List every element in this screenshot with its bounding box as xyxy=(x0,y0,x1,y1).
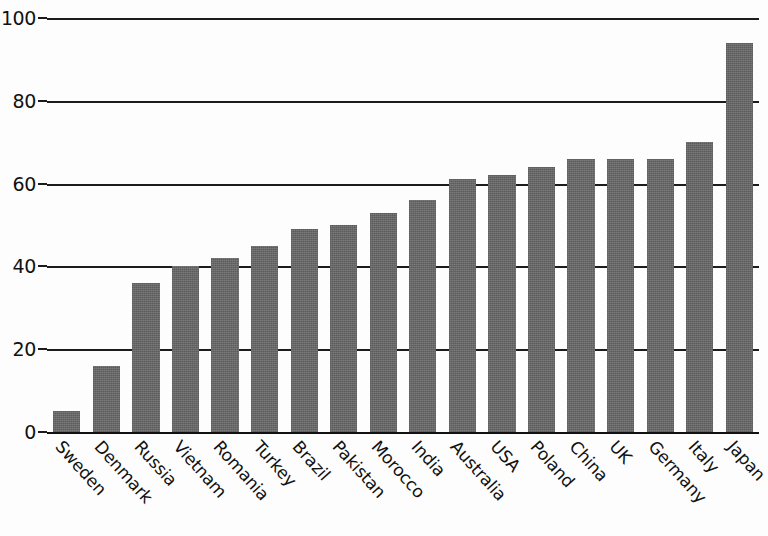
bar-slot xyxy=(205,18,245,432)
x-axis: SwedenDenmarkRussiaVietnamRomaniaTurkeyB… xyxy=(47,434,759,536)
bar-china[interactable] xyxy=(567,159,594,432)
bar-slot xyxy=(561,18,601,432)
x-slot: Vietnam xyxy=(166,434,206,536)
bar-india[interactable] xyxy=(409,200,436,432)
x-slot: Germany xyxy=(640,434,680,536)
bar-usa[interactable] xyxy=(488,175,515,432)
x-slot: India xyxy=(403,434,443,536)
x-slot: Russia xyxy=(126,434,166,536)
bar-uk[interactable] xyxy=(607,159,634,432)
y-tick-label: 100 xyxy=(1,9,36,28)
x-slot: Sweden xyxy=(47,434,87,536)
bar-japan[interactable] xyxy=(726,43,753,432)
x-tick-label-japan: Japan xyxy=(725,438,768,484)
x-slot: USA xyxy=(482,434,522,536)
x-slot: Denmark xyxy=(87,434,127,536)
bar-slot xyxy=(87,18,127,432)
y-tick-mark xyxy=(38,100,47,102)
x-tick-label-usa: USA xyxy=(487,438,523,475)
x-tick-label-uk: UK xyxy=(606,438,634,467)
x-tick-label-italy: Italy xyxy=(685,438,722,476)
bar-slot xyxy=(640,18,680,432)
bar-slot xyxy=(720,18,760,432)
y-tick-mark xyxy=(38,431,47,433)
bar-chart: 020406080100 SwedenDenmarkRussiaVietnamR… xyxy=(0,0,768,536)
bar-slot xyxy=(482,18,522,432)
y-tick-mark xyxy=(38,17,47,19)
y-tick-mark xyxy=(38,183,47,185)
bar-romania[interactable] xyxy=(211,258,238,432)
bar-slot xyxy=(245,18,285,432)
bar-slot xyxy=(601,18,641,432)
x-slot: Australia xyxy=(443,434,483,536)
chart-title xyxy=(0,0,768,2)
bar-slot xyxy=(364,18,404,432)
y-tick-mark xyxy=(38,265,47,267)
bar-slot xyxy=(47,18,87,432)
bar-turkey[interactable] xyxy=(251,246,278,432)
bar-australia[interactable] xyxy=(449,179,476,432)
bar-slot xyxy=(443,18,483,432)
bar-morocco[interactable] xyxy=(370,213,397,432)
bar-russia[interactable] xyxy=(132,283,159,432)
bar-slot xyxy=(403,18,443,432)
bar-slot xyxy=(324,18,364,432)
y-tick-label: 20 xyxy=(13,340,36,359)
bar-slot xyxy=(166,18,206,432)
bars-group xyxy=(47,18,759,432)
bar-slot xyxy=(522,18,562,432)
y-axis: 020406080100 xyxy=(0,18,42,432)
x-slot: Romania xyxy=(205,434,245,536)
x-slot: Japan xyxy=(720,434,760,536)
bar-denmark[interactable] xyxy=(93,366,120,432)
bar-brazil[interactable] xyxy=(291,229,318,432)
x-slot: Pakistan xyxy=(324,434,364,536)
x-slot: Turkey xyxy=(245,434,285,536)
bar-sweden[interactable] xyxy=(53,411,80,432)
bar-germany[interactable] xyxy=(647,159,674,432)
x-slot: Poland xyxy=(522,434,562,536)
x-slot: China xyxy=(561,434,601,536)
y-tick-label: 60 xyxy=(13,174,36,193)
x-slot: Morocco xyxy=(364,434,404,536)
bar-slot xyxy=(680,18,720,432)
bar-pakistan[interactable] xyxy=(330,225,357,432)
y-tick-mark xyxy=(38,348,47,350)
bar-slot xyxy=(284,18,324,432)
bar-italy[interactable] xyxy=(686,142,713,432)
x-slot: UK xyxy=(601,434,641,536)
x-slot: Brazil xyxy=(284,434,324,536)
bar-vietnam[interactable] xyxy=(172,266,199,432)
plot-area xyxy=(47,18,759,432)
y-tick-label: 80 xyxy=(13,91,36,110)
bar-slot xyxy=(126,18,166,432)
x-slot: Italy xyxy=(680,434,720,536)
y-tick-label: 40 xyxy=(13,257,36,276)
bar-poland[interactable] xyxy=(528,167,555,432)
y-tick-label: 0 xyxy=(24,423,36,442)
